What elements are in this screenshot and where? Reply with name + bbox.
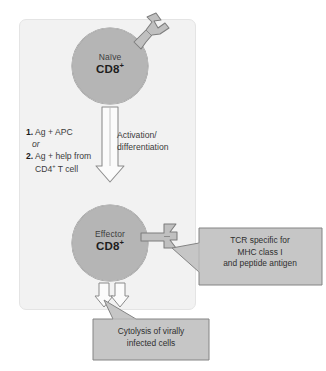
- tcr-callout-line2: MHC class I: [237, 247, 282, 257]
- cytolysis-callout-text: Cytolysis of virally infected cells: [97, 326, 205, 349]
- effector-cell-superscript: +: [119, 238, 124, 247]
- signal-item-1-text: Ag + APC: [35, 127, 73, 137]
- signal-item-2-continuation-end: T cell: [56, 164, 79, 174]
- effector-cell-label: Effector CD8+: [65, 229, 155, 254]
- cytolysis-callout-line1: Cytolysis of virally: [118, 326, 185, 336]
- tcr-callout-text: TCR specific for MHC class I and peptide…: [204, 235, 316, 270]
- tcr-callout-line1: TCR specific for: [230, 235, 290, 245]
- naive-cell-label-line2: CD8+: [65, 63, 155, 77]
- signal-item-2-continuation: CD4+ T cell: [26, 163, 110, 175]
- signal-item-1-number: 1.: [26, 127, 33, 137]
- signal-item-1: 1. Ag + APC: [26, 126, 110, 138]
- diagram-root: Naïve CD8+ Effector CD8+ 1. Ag + APC or …: [0, 0, 326, 371]
- naive-cell-label-line1: Naïve: [65, 52, 155, 62]
- activation-label-line2: differentiation: [117, 142, 168, 152]
- activation-arrow-label: Activation/ differentiation: [117, 130, 181, 153]
- activation-signals-list: 1. Ag + APC or 2. Ag + help from CD4+ T …: [26, 126, 110, 175]
- naive-cell-label: Naïve CD8+: [65, 52, 155, 77]
- signal-item-2-number: 2.: [26, 151, 33, 161]
- effector-cell-label-line2: CD8+: [65, 240, 155, 254]
- activation-label-line1: Activation/: [117, 130, 157, 140]
- effector-cell-label-line1: Effector: [65, 229, 155, 239]
- diagram-artwork: [0, 0, 326, 371]
- signal-conjunction: or: [26, 138, 110, 150]
- tcr-callout-line3: and peptide antigen: [223, 258, 297, 268]
- cytolysis-callout-line2: infected cells: [127, 338, 175, 348]
- naive-cell-superscript: +: [119, 61, 124, 70]
- naive-tcr-receptor-icon: [134, 13, 169, 49]
- signal-item-2: 2. Ag + help from: [26, 150, 110, 162]
- signal-item-2-text: Ag + help from: [35, 151, 91, 161]
- cytolysis-arrows: [95, 283, 129, 307]
